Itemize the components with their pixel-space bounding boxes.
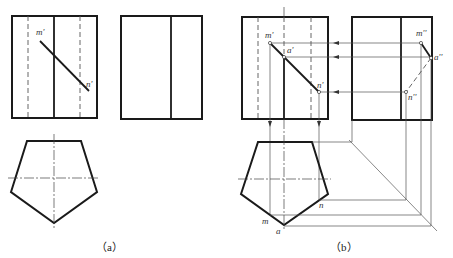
label-n-double-prime: n'' bbox=[408, 92, 417, 102]
figure-a: m' n' （a） bbox=[8, 16, 202, 253]
line-an-side-hidden-b bbox=[406, 58, 431, 92]
caption-a: （a） bbox=[96, 241, 123, 253]
point-a-prime bbox=[282, 55, 285, 58]
front-view-outline-b bbox=[242, 17, 328, 119]
point-m-double-prime bbox=[419, 41, 422, 44]
projection-diagram: m' n' （a） bbox=[0, 0, 453, 258]
arrow-left-m bbox=[333, 41, 339, 45]
label-a-double-prime: a'' bbox=[434, 52, 443, 62]
top-view-pentagon-b bbox=[241, 142, 328, 225]
label-n-prime-b: n' bbox=[317, 80, 325, 90]
arrow-down-n bbox=[317, 121, 321, 127]
figure-b: m' a' n' m'' a'' n'' n m a （b） bbox=[238, 7, 443, 253]
label-a-top: a bbox=[276, 226, 281, 236]
label-a-prime-b: a' bbox=[287, 45, 295, 55]
label-m-top: m bbox=[262, 216, 269, 226]
point-m-prime bbox=[268, 41, 271, 44]
miter-line-45 bbox=[349, 140, 437, 231]
label-m-double-prime: m'' bbox=[416, 28, 427, 38]
label-n-prime-a: n' bbox=[86, 79, 94, 89]
label-n-top: n bbox=[319, 200, 324, 210]
point-a-double-prime bbox=[429, 56, 432, 59]
caption-b: （b） bbox=[330, 241, 358, 253]
arrow-left-n bbox=[333, 90, 339, 94]
label-m-prime-a: m' bbox=[36, 27, 45, 37]
point-n-prime bbox=[317, 90, 320, 93]
arrow-down-m bbox=[268, 121, 272, 127]
label-m-prime-b: m' bbox=[265, 30, 274, 40]
line-ma-side-b bbox=[421, 43, 431, 58]
line-mn-front-b bbox=[270, 43, 319, 92]
line-mn-front-a bbox=[40, 41, 89, 91]
arrow-left-a bbox=[333, 55, 339, 59]
side-view-outline-a bbox=[121, 16, 202, 119]
